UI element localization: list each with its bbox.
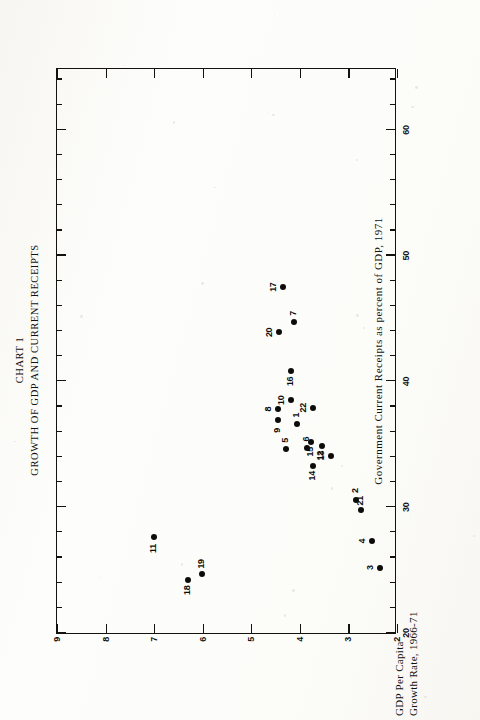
x-major-tick — [57, 506, 66, 507]
x-minor-tick — [57, 78, 62, 79]
x-minor-tick — [57, 104, 62, 105]
y-tick-label: 4 — [295, 637, 305, 649]
x-major-tick — [57, 632, 66, 633]
x-tick-label: 60 — [401, 125, 411, 135]
x-minor-tick — [57, 355, 62, 356]
x-minor-tick — [390, 531, 395, 532]
data-point — [151, 534, 157, 540]
y-tick-label: 6 — [198, 637, 208, 649]
chart-title-line1: CHART 1 — [14, 0, 25, 720]
x-tick-label: 30 — [401, 502, 411, 512]
data-point-label: 11 — [148, 544, 158, 553]
plot-area: 2030405060 23456789 12345678910111213141… — [56, 68, 396, 634]
y-tick-label: 7 — [149, 637, 159, 649]
data-point — [288, 397, 294, 403]
data-point-label: 10 — [276, 396, 286, 405]
x-minor-tick — [390, 204, 395, 205]
y-tick-label: 3 — [343, 637, 353, 649]
x-minor-tick — [390, 154, 395, 155]
x-major-tick — [386, 380, 395, 381]
data-point-label: 13 — [316, 451, 326, 460]
data-point-label: 9 — [272, 428, 282, 433]
y-axis-title-line1: GDP Per Capita — [392, 611, 406, 716]
y-axis-title-line2: Growth Rate, 1966-71 — [406, 611, 420, 716]
x-minor-tick — [57, 305, 62, 306]
y-axis-title: GDP Per Capita Growth Rate, 1966-71 — [392, 611, 420, 716]
x-minor-tick — [390, 481, 395, 482]
data-point-label: 22 — [298, 403, 308, 412]
y-tick — [154, 69, 155, 78]
data-point — [310, 463, 316, 469]
x-minor-tick — [57, 582, 62, 583]
x-minor-tick — [390, 78, 395, 79]
data-point-label: 2 — [350, 488, 360, 493]
x-minor-tick — [57, 607, 62, 608]
y-tick — [251, 69, 252, 78]
x-minor-tick — [390, 229, 395, 230]
x-major-tick — [57, 380, 66, 381]
x-minor-tick — [390, 280, 395, 281]
data-point-label: 7 — [288, 311, 298, 316]
data-point-label: 16 — [285, 377, 295, 386]
data-point-label: 8 — [263, 407, 273, 412]
x-minor-tick — [57, 280, 62, 281]
data-point-label: 19 — [196, 559, 206, 568]
x-minor-tick — [57, 431, 62, 432]
y-tick-label: 5 — [246, 637, 256, 649]
data-point-label: 4 — [357, 539, 367, 544]
x-minor-tick — [57, 531, 62, 532]
y-tick — [203, 69, 204, 78]
x-major-tick — [57, 254, 66, 255]
x-minor-tick — [390, 556, 395, 557]
x-minor-tick — [390, 330, 395, 331]
x-minor-tick — [390, 179, 395, 180]
x-tick-label: 40 — [401, 377, 411, 387]
data-point — [291, 319, 297, 325]
y-tick — [300, 624, 301, 633]
x-minor-tick — [390, 431, 395, 432]
data-point — [328, 453, 334, 459]
data-point — [280, 284, 286, 290]
data-point — [319, 443, 325, 449]
x-major-tick — [386, 254, 395, 255]
data-point — [310, 405, 316, 411]
data-point-label: 1 — [291, 413, 301, 418]
x-minor-tick — [57, 405, 62, 406]
y-tick — [300, 69, 301, 78]
data-point — [308, 439, 314, 445]
x-minor-tick — [57, 154, 62, 155]
x-minor-tick — [57, 204, 62, 205]
x-minor-tick — [390, 582, 395, 583]
data-point — [358, 507, 364, 513]
data-point — [288, 368, 294, 374]
rotated-figure-wrapper: CHART 1 GROWTH OF GDP AND CURRENT RECEIP… — [0, 0, 480, 720]
y-tick — [397, 69, 398, 78]
y-tick — [154, 624, 155, 633]
x-minor-tick — [57, 481, 62, 482]
chart-figure: CHART 1 GROWTH OF GDP AND CURRENT RECEIP… — [0, 0, 480, 720]
x-minor-tick — [57, 229, 62, 230]
data-point — [275, 417, 281, 423]
y-tick — [348, 624, 349, 633]
x-minor-tick — [57, 179, 62, 180]
data-point-label: 15 — [305, 447, 315, 456]
data-point — [275, 406, 281, 412]
data-point-label: 5 — [280, 438, 290, 443]
x-minor-tick — [390, 305, 395, 306]
data-point — [283, 446, 289, 452]
y-tick — [106, 624, 107, 633]
data-point — [276, 329, 282, 335]
x-tick-label: 50 — [401, 251, 411, 261]
data-point-label: 18 — [182, 585, 192, 594]
y-tick-label: 8 — [101, 637, 111, 649]
x-minor-tick — [57, 330, 62, 331]
y-tick — [348, 69, 349, 78]
chart-title-line2: GROWTH OF GDP AND CURRENT RECEIPTS — [29, 0, 40, 720]
data-point-label: 20 — [264, 328, 274, 337]
x-major-tick — [386, 129, 395, 130]
y-tick-label: 9 — [52, 637, 62, 649]
data-point — [199, 571, 205, 577]
x-minor-tick — [57, 456, 62, 457]
y-tick — [251, 624, 252, 633]
y-tick — [203, 624, 204, 633]
